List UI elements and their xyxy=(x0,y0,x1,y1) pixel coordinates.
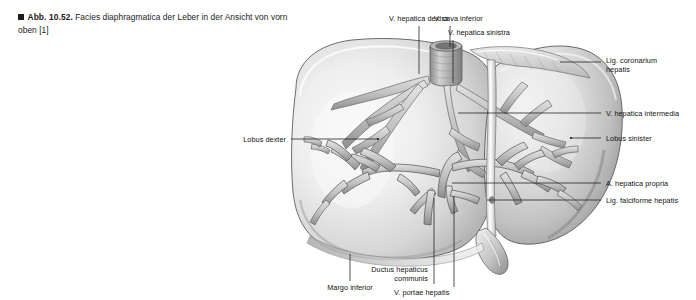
label-lig-coronarium-hepatis: Lig. coronarium hepatis xyxy=(606,56,696,75)
label-a-hepatica-propria: A. hepatica propria xyxy=(606,179,694,188)
label-v-portae-hepatis: V. portae hepatis xyxy=(394,288,478,297)
label-v-hepatica-intermedia: V. hepatica intermedia xyxy=(606,109,696,118)
label-v-cava-inferior: V. cava inferior xyxy=(434,14,524,23)
label-ductus-hepaticus-communis: Ductus hepaticus communis xyxy=(352,265,428,284)
lig-falciforme-hepatis-shape xyxy=(486,60,496,236)
label-v-hepatica-sinistra: V. hepatica sinistra xyxy=(448,28,548,37)
liver-illustration xyxy=(0,0,696,300)
figure-page: Abb. 10.52. Facies diaphragmatica der Le… xyxy=(0,0,696,300)
v-cava-inferior-shape xyxy=(430,41,462,86)
label-margo-inferior: Margo inferior xyxy=(315,283,385,292)
label-lobus-dexter: Lobus dexter xyxy=(218,135,286,144)
liver-svg xyxy=(0,0,696,300)
label-lobus-sinister: Lobus sinister xyxy=(606,134,688,143)
label-lig-falciforme-hepatis: Lig. falciforme hepatis xyxy=(606,196,696,205)
